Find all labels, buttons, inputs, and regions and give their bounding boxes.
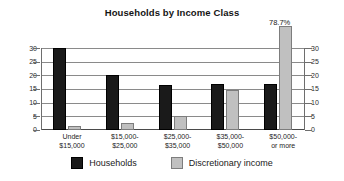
x-axis-label-4-line2: $50,000 — [218, 142, 243, 149]
chart-legend: Households Discretionary income — [0, 157, 344, 169]
y-axis-right-tick-0: 0 — [311, 126, 327, 133]
tick-left-20 — [33, 75, 40, 76]
legend-item-households: Households — [71, 157, 137, 169]
plot-area — [41, 48, 305, 130]
tick-right-10 — [305, 103, 312, 104]
chart-container: Households by Income Class Percent 30 25… — [0, 0, 344, 181]
x-axis-label-5-line1: $50,000- — [269, 133, 297, 140]
bar-discretionary-1 — [68, 126, 81, 130]
tick-left-0 — [33, 130, 40, 131]
tick-left-15 — [33, 89, 40, 90]
bar-discretionary-2 — [121, 123, 134, 130]
bar-discretionary-5 — [279, 26, 292, 130]
x-axis-label-3-line1: $25,000- — [164, 133, 192, 140]
tick-right-15 — [305, 89, 312, 90]
y-axis-right-tick-30: 30 — [311, 45, 327, 52]
tick-left-10 — [33, 103, 40, 104]
bar-households-2 — [106, 75, 119, 130]
tick-right-20 — [305, 75, 312, 76]
tick-right-0 — [305, 130, 312, 131]
y-axis-right-tick-5: 5 — [311, 113, 327, 120]
bar-discretionary-4 — [226, 90, 239, 131]
legend-label-households: Households — [89, 158, 137, 168]
x-axis-label-3-line2: $35,000 — [165, 142, 190, 149]
bar-group-35000-50000 — [200, 48, 253, 130]
legend-item-discretionary-income: Discretionary income — [171, 157, 273, 169]
bar-discretionary-3 — [174, 116, 187, 131]
legend-swatch-discretionary-income-icon — [171, 157, 183, 169]
y-axis-right-tick-10: 10 — [311, 99, 327, 106]
x-axis-label-1-line1: Under — [62, 133, 81, 140]
bar-households-4 — [211, 84, 224, 130]
data-label-discretionary-5: 78.7% — [269, 18, 290, 27]
bar-group-under-15000 — [42, 48, 95, 130]
x-axis-label-5: $50,000- or more — [252, 133, 314, 150]
x-axis-label-5-line2: or more — [271, 142, 295, 149]
tick-right-25 — [305, 62, 312, 63]
tick-left-5 — [33, 116, 40, 117]
y-axis-right-tick-25: 25 — [311, 58, 327, 65]
bar-households-5 — [264, 84, 277, 130]
bar-group-50000-or-more — [253, 48, 306, 130]
tick-left-25 — [33, 62, 40, 63]
y-axis-right-tick-20: 20 — [311, 72, 327, 79]
legend-swatch-households-icon — [71, 157, 83, 169]
x-axis-label-1-line2: $15,000 — [59, 142, 84, 149]
bar-households-3 — [159, 85, 172, 130]
legend-label-discretionary-income: Discretionary income — [189, 158, 273, 168]
bar-group-25000-35000 — [148, 48, 201, 130]
tick-right-30 — [305, 48, 312, 49]
x-axis-label-4-line1: $35,000- — [217, 133, 245, 140]
y-axis-right-tick-15: 15 — [311, 85, 327, 92]
tick-left-30 — [33, 48, 40, 49]
bar-households-1 — [53, 48, 66, 130]
chart-title: Households by Income Class — [0, 7, 344, 18]
x-axis-label-2-line2: $25,000 — [112, 142, 137, 149]
tick-right-5 — [305, 116, 312, 117]
bar-group-15000-25000 — [95, 48, 148, 130]
x-axis-label-2-line1: $15,000- — [111, 133, 139, 140]
